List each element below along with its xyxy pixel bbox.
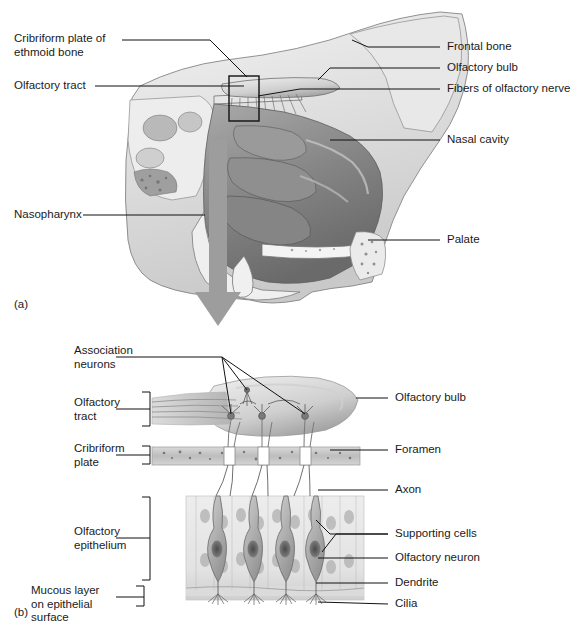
label-palate: Palate — [447, 233, 480, 247]
label-olfactory-epithelium: Olfactory epithelium — [74, 525, 126, 552]
label-dendrite: Dendrite — [395, 576, 438, 590]
label-nasal-cavity: Nasal cavity — [447, 133, 509, 147]
label-frontal-bone: Frontal bone — [447, 40, 512, 54]
label-olfactory-tract-b: Olfactory tract — [74, 396, 120, 423]
label-mucous-layer-on-epithelial-surface: Mucous layer on epithelial surface — [31, 584, 99, 625]
label-olfactory-neuron: Olfactory neuron — [395, 551, 480, 565]
label-axon: Axon — [395, 483, 421, 497]
label-olfactory-tract: Olfactory tract — [14, 79, 86, 93]
label-cilia: Cilia — [395, 597, 417, 611]
label-foramen: Foramen — [395, 443, 441, 457]
label-association-neurons: Association neurons — [74, 344, 133, 371]
label-olfactory-bulb: Olfactory bulb — [447, 61, 518, 75]
panel-b-illustration — [152, 376, 364, 605]
label-cribriform-plate-b: Cribriform plate — [74, 442, 124, 469]
figure-olfactory-system: Cribriform plate of ethmoid bone Olfacto… — [0, 0, 577, 631]
label-supporting-cells: Supporting cells — [395, 527, 477, 541]
panel-mark-a: (a) — [14, 298, 28, 310]
label-cribriform-plate-of-ethmoid-bone: Cribriform plate of ethmoid bone — [14, 32, 105, 59]
panel-a-illustration — [125, 12, 468, 303]
panel-mark-b: (b) — [14, 606, 28, 618]
label-fibers-of-olfactory-nerve: Fibers of olfactory nerve — [447, 82, 570, 96]
label-olfactory-bulb-b: Olfactory bulb — [395, 391, 466, 405]
label-nasopharynx: Nasopharynx — [14, 208, 82, 222]
